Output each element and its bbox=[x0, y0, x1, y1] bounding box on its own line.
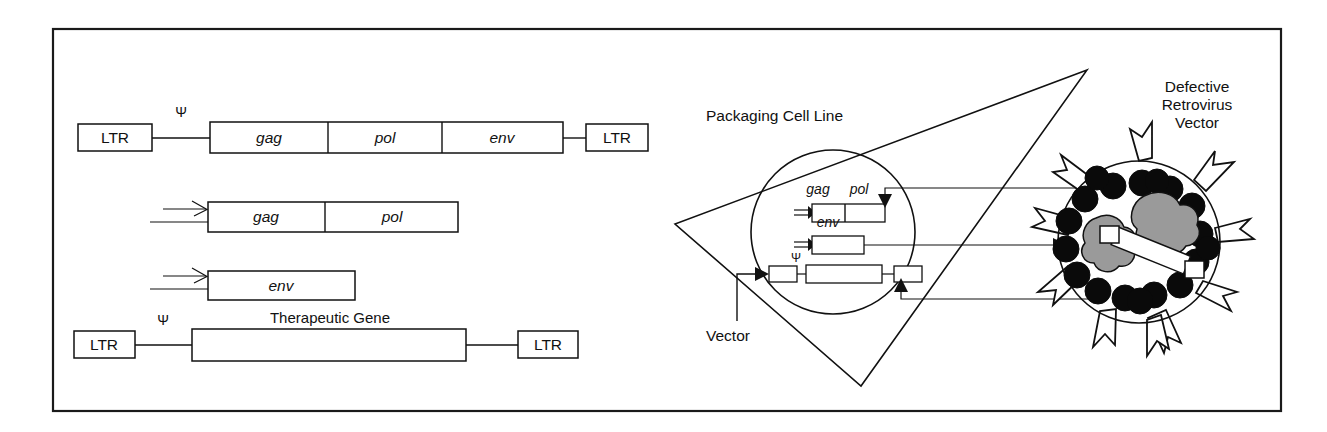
retroviral-vector-diagram: LTR Ψ gag pol env LTR bbox=[0, 0, 1327, 432]
ltr-label-left: LTR bbox=[101, 129, 129, 146]
cell-gene-label-env: env bbox=[817, 214, 841, 230]
cell-vector-insert bbox=[806, 265, 882, 283]
psi-label-row1: Ψ bbox=[175, 104, 187, 120]
virus-label-line-1: Defective bbox=[1165, 78, 1230, 95]
gene-label-env-row1: env bbox=[490, 129, 516, 146]
gene-label-pol-row2: pol bbox=[381, 208, 403, 225]
cell-gene-label-pol: pol bbox=[849, 181, 870, 197]
rna-genome-end-right bbox=[1185, 261, 1204, 278]
capsid-dot bbox=[1145, 169, 1169, 193]
cell-vector-ltr-right bbox=[894, 266, 922, 282]
capsid-dot bbox=[1064, 262, 1090, 288]
rna-genome-end-left bbox=[1100, 226, 1119, 243]
gene-label-pol-row1: pol bbox=[374, 129, 396, 146]
gene-label-gag-row1: gag bbox=[256, 129, 282, 146]
gene-block-row2 bbox=[208, 202, 458, 232]
capsid-dot bbox=[1085, 278, 1111, 304]
therapeutic-gene-label: Therapeutic Gene bbox=[270, 309, 390, 326]
cell-gene-label-gag: gag bbox=[806, 181, 830, 197]
ltr-label-right: LTR bbox=[603, 129, 631, 146]
virus-label-line-3: Vector bbox=[1175, 114, 1219, 131]
vector-label: Vector bbox=[706, 327, 750, 344]
capsid-dot bbox=[1053, 236, 1079, 262]
capsid-dot bbox=[1196, 236, 1220, 260]
gene-label-gag-row2: gag bbox=[253, 208, 279, 225]
figure-root: LTR Ψ gag pol env LTR bbox=[0, 0, 1327, 432]
capsid-dot bbox=[1127, 288, 1153, 314]
cell-gene-block-env bbox=[812, 236, 864, 254]
virus-label-line-2: Retrovirus bbox=[1162, 96, 1233, 113]
psi-label-row4: Ψ bbox=[157, 312, 169, 328]
capsid-dot bbox=[1085, 166, 1109, 190]
gene-label-env-row3: env bbox=[269, 277, 295, 294]
cell-vector-ltr-left bbox=[769, 266, 797, 282]
capsid-dot bbox=[1056, 208, 1082, 234]
ltr-label-left-therapeutic: LTR bbox=[90, 336, 118, 353]
cell-psi-label: Ψ bbox=[791, 251, 801, 265]
packaging-cell-line-label: Packaging Cell Line bbox=[706, 107, 843, 124]
therapeutic-gene-box bbox=[192, 329, 466, 361]
ltr-label-right-therapeutic: LTR bbox=[534, 336, 562, 353]
